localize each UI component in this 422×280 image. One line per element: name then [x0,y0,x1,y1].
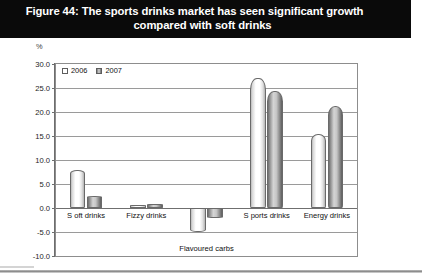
y-axis-tick-label: 5.0 [20,180,50,189]
x-axis-category-label: Fizzy drinks [126,211,166,220]
y-axis-tick-label: 25.0 [20,84,50,93]
figure-title-bar: Figure 44: The sports drinks market has … [0,0,411,38]
bar-2006 [130,205,146,208]
x-axis-category-label: S oft drinks [67,211,105,220]
legend-item-2006: 2006 [62,66,87,75]
page-title: Figure 44: The sports drinks market has … [42,5,364,31]
bars-layer [56,64,357,256]
page-bottom-edge-mark [0,266,34,268]
bar-2007 [147,204,163,208]
legend-label-2007: 2007 [105,66,121,75]
title-line-1: Figure 44: The sports drinks market has … [26,5,364,17]
bar-2006 [70,170,86,208]
legend-item-2007: 2007 [96,66,121,75]
bar-2007 [207,208,223,218]
bar-2006 [250,78,266,208]
y-axis-tick-label: -10.0 [20,252,50,261]
legend-label-2006: 2006 [71,66,87,75]
y-axis-tick-label: 15.0 [20,132,50,141]
legend-swatch-2006-icon [62,68,68,74]
figure-container: Figure 44: The sports drinks market has … [0,0,422,280]
bar-2007 [267,91,283,208]
x-axis-category-label: Flavoured carbs [179,244,233,253]
y-axis-tick-label: 20.0 [20,108,50,117]
y-axis-tick-label: 10.0 [20,156,50,165]
page-bottom-edge [0,270,422,273]
bar-2007 [328,106,344,208]
chart-legend: 2006 2007 [62,66,122,75]
plot-area: S oft drinksFizzy drinksFlavoured carbsS… [55,63,358,257]
y-axis-tick-labels: 30.025.020.015.010.05.00.0-5.0-10.0 [18,63,50,257]
bar-2006 [190,208,206,232]
bar-2006 [311,134,327,208]
title-line-2: compared with soft drinks [42,19,364,32]
y-axis-tick-label: -5.0 [20,228,50,237]
legend-swatch-2007-icon [96,68,102,74]
x-axis-category-label: S ports drinks [243,211,289,220]
y-axis-tick-label: 30.0 [20,60,50,69]
x-axis-category-label: Energy drinks [304,211,350,220]
y-axis-tick-label: 0.0 [20,204,50,213]
bar-2007 [87,196,103,208]
axis-unit-label: % [36,42,43,51]
